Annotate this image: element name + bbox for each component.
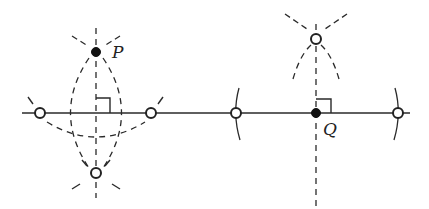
arc-tick-left (28, 97, 33, 104)
open-point-right-top (311, 34, 321, 44)
point-p (92, 48, 101, 57)
perpendicular-construction-diagram: P Q (0, 0, 429, 209)
label-q: Q (323, 119, 337, 139)
tick-t-ur (325, 14, 347, 29)
arc-tick-right (158, 97, 163, 104)
open-point-right-b (393, 108, 403, 118)
tick-t-ul (285, 14, 307, 29)
open-point-left-b (146, 108, 156, 118)
point-q (312, 109, 321, 118)
open-point-left-bottom (91, 168, 101, 178)
open-point-right-a (231, 108, 241, 118)
tick-b-ll (72, 184, 80, 189)
open-point-left-a (35, 108, 45, 118)
arc-top-right (321, 45, 339, 79)
right-angle-marker-left (96, 98, 110, 113)
label-p: P (111, 42, 124, 62)
tick-p-ul (72, 36, 88, 46)
arc-top-left (293, 45, 311, 79)
tick-b-lr (112, 184, 120, 189)
right-construction: Q (231, 14, 403, 206)
